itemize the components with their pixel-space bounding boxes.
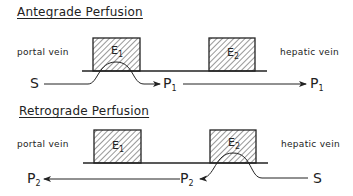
perfusion-diagram-graphics	[0, 0, 353, 196]
e1-label-retrograde: E1	[112, 139, 124, 154]
hepatic-vein-label-retrograde: hepatic vein	[281, 139, 340, 149]
e1-subscript: 1	[118, 50, 123, 59]
product-subscript: 2	[188, 179, 193, 188]
e2-label-retrograde: E2	[228, 136, 240, 151]
hepatic-vein-label-antegrade: hepatic vein	[280, 47, 339, 57]
e2-subscript: 2	[234, 52, 239, 61]
e2-label-antegrade: E2	[227, 46, 239, 61]
e1-letter: E	[111, 44, 118, 57]
e2-subscript: 2	[235, 142, 240, 151]
substrate-label-retrograde: S	[313, 170, 322, 186]
e1-label-antegrade: E1	[111, 44, 123, 59]
e2-letter: E	[228, 136, 235, 149]
product-subscript: 2	[35, 179, 40, 188]
retrograde-graphics	[44, 130, 308, 179]
product-end-label-antegrade: P1	[310, 75, 324, 93]
product-subscript: 1	[171, 84, 176, 93]
retrograde-title: Retrograde Perfusion	[19, 104, 149, 118]
product-end-label-retrograde: P2	[27, 170, 41, 188]
portal-vein-label-antegrade: portal vein	[17, 47, 69, 57]
antegrade-title: Antegrade Perfusion	[17, 5, 143, 19]
product-mid-label-retrograde: P2	[180, 170, 194, 188]
product-subscript: 1	[318, 84, 323, 93]
portal-vein-label-retrograde: portal vein	[17, 139, 69, 149]
product-mid-label-antegrade: P1	[163, 75, 177, 93]
substrate-label-antegrade: S	[30, 75, 39, 91]
e1-subscript: 1	[119, 145, 124, 154]
e1-letter: E	[112, 139, 119, 152]
e2-letter: E	[227, 46, 234, 59]
